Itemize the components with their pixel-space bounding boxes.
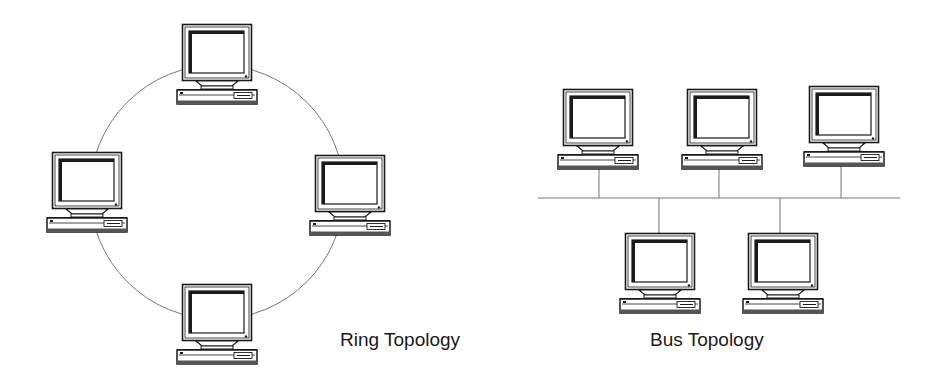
bus-topology-label: Bus Topology xyxy=(650,329,764,351)
topology-diagram xyxy=(0,0,941,377)
ring-topology-label: Ring Topology xyxy=(340,329,460,351)
ring-node-bottom xyxy=(177,285,257,365)
ring-node-top xyxy=(177,25,257,105)
bus-node-top-1 xyxy=(558,90,638,170)
ring-topology xyxy=(47,25,390,365)
bus-node-bottom-1 xyxy=(620,234,700,314)
bus-node-bottom-2 xyxy=(743,234,823,314)
bus-node-top-2 xyxy=(682,90,762,170)
ring-node-left xyxy=(47,153,127,233)
bus-node-top-3 xyxy=(804,87,884,167)
ring-node-right xyxy=(310,156,390,236)
bus-topology xyxy=(538,87,900,314)
